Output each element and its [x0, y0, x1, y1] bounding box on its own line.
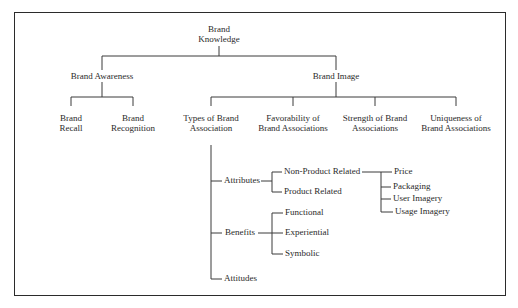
node-strength: Strength of Brand Associations	[343, 114, 408, 133]
node-brand-image: Brand Image	[313, 72, 360, 82]
node-uniqueness: Uniqueness of Brand Associations	[421, 114, 491, 133]
node-packaging: Packaging	[393, 182, 431, 192]
node-label-line2: Recall	[60, 124, 83, 134]
node-benefits: Benefits	[225, 228, 255, 238]
node-label-line2: Associations	[343, 124, 408, 134]
node-brand-recognition: Brand Recognition	[111, 114, 155, 133]
node-label-line2: Recognition	[111, 124, 155, 134]
node-attributes: Attributes	[224, 176, 260, 186]
node-favorability: Favorability of Brand Associations	[258, 114, 328, 133]
node-label-line2: Knowledge	[198, 35, 240, 45]
node-non-product-related: Non-Product Related	[284, 167, 360, 177]
node-experiential: Experiential	[285, 228, 329, 238]
node-brand-knowledge: Brand Knowledge	[198, 25, 240, 44]
node-label-line2: Brand Associations	[421, 124, 491, 134]
node-functional: Functional	[285, 208, 324, 218]
node-brand-awareness: Brand Awareness	[71, 72, 133, 82]
node-product-related: Product Related	[284, 187, 342, 197]
node-usage-imagery: Usage Imagery	[395, 207, 450, 217]
node-attitudes: Attitudes	[224, 274, 257, 284]
node-label-line2: Brand Associations	[258, 124, 328, 134]
node-label-line2: Association	[183, 124, 238, 134]
connector-lines	[0, 0, 518, 308]
node-user-imagery: User Imagery	[393, 194, 442, 204]
node-price: Price	[394, 167, 413, 177]
node-types-of-brand-association: Types of Brand Association	[183, 114, 238, 133]
node-symbolic: Symbolic	[285, 249, 320, 259]
node-brand-recall: Brand Recall	[60, 114, 83, 133]
